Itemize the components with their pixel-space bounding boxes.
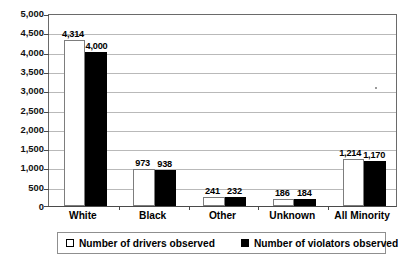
legend-label-drivers: Number of drivers observed bbox=[79, 238, 215, 249]
y-tick-label: 500 bbox=[0, 183, 44, 192]
bar-value-label: 973 bbox=[135, 159, 150, 168]
y-axis-tick bbox=[44, 206, 49, 207]
bar-drivers-other[interactable] bbox=[203, 197, 225, 206]
bar-drivers-black[interactable] bbox=[133, 169, 155, 207]
white-square-icon bbox=[66, 239, 74, 247]
bar-drivers-all-minority[interactable] bbox=[343, 159, 365, 206]
y-tick-label: 5,000 bbox=[0, 9, 44, 18]
x-axis-label-all-minority: All Minority bbox=[327, 210, 397, 222]
bar-chart: 5,000 4,500 4,000 3,500 3,000 2,500 2,00… bbox=[0, 0, 414, 271]
bar-violators-white[interactable] bbox=[85, 52, 107, 206]
bar-value-label: 184 bbox=[297, 189, 312, 198]
x-axis-label-other: Other bbox=[188, 210, 258, 222]
bar-value-label: 1,214 bbox=[339, 149, 361, 158]
y-tick-label: 2,500 bbox=[0, 106, 44, 115]
bar-drivers-white[interactable] bbox=[64, 40, 86, 206]
bar-violators-black[interactable] bbox=[155, 170, 177, 206]
x-axis-label-black: Black bbox=[118, 210, 188, 222]
x-axis-labels: White Black Other Unknown All Minority bbox=[48, 210, 397, 226]
bar-value-label: 4,000 bbox=[86, 42, 108, 51]
y-tick-label: 4,500 bbox=[0, 28, 44, 37]
y-tick-label: 1,000 bbox=[0, 163, 44, 172]
bar-violators-other[interactable] bbox=[225, 197, 247, 206]
bar-value-label: 241 bbox=[205, 187, 220, 196]
bar-value-label: 232 bbox=[227, 187, 242, 196]
bar-value-label: 4,314 bbox=[62, 30, 84, 39]
y-tick-label: 0 bbox=[0, 202, 44, 211]
y-tick-label: 4,000 bbox=[0, 48, 44, 57]
y-tick-label: 3,500 bbox=[0, 67, 44, 76]
x-axis-label-unknown: Unknown bbox=[257, 210, 327, 222]
bar-violators-all-minority[interactable] bbox=[364, 161, 386, 206]
bar-drivers-unknown[interactable] bbox=[273, 199, 295, 206]
plot-area: 4,314 4,000 973 938 241 232 bbox=[48, 14, 397, 207]
bar-value-label: 186 bbox=[275, 189, 290, 198]
y-tick-label: 1,500 bbox=[0, 144, 44, 153]
y-tick-label: 3,000 bbox=[0, 86, 44, 95]
legend-item-violators[interactable]: Number of violators observed bbox=[241, 238, 398, 249]
bar-violators-unknown[interactable] bbox=[294, 199, 316, 206]
bar-group-all-minority: 1,214 1,170 bbox=[328, 15, 398, 206]
bar-value-label: 938 bbox=[157, 160, 172, 169]
black-square-icon bbox=[241, 239, 249, 247]
bar-group-unknown: 186 184 bbox=[258, 15, 328, 206]
y-tick-label: 2,000 bbox=[0, 125, 44, 134]
bar-group-black: 973 938 bbox=[119, 15, 189, 206]
bar-value-label: 1,170 bbox=[363, 151, 385, 160]
x-axis-label-white: White bbox=[48, 210, 118, 222]
bar-group-other: 241 232 bbox=[189, 15, 259, 206]
legend-item-drivers[interactable]: Number of drivers observed bbox=[66, 238, 215, 249]
bar-groups: 4,314 4,000 973 938 241 232 bbox=[49, 15, 396, 206]
bar-group-white: 4,314 4,000 bbox=[49, 15, 119, 206]
y-axis-labels: 5,000 4,500 4,000 3,500 3,000 2,500 2,00… bbox=[0, 14, 44, 207]
legend: Number of drivers observed Number of vio… bbox=[57, 232, 386, 254]
legend-label-violators: Number of violators observed bbox=[254, 238, 398, 249]
